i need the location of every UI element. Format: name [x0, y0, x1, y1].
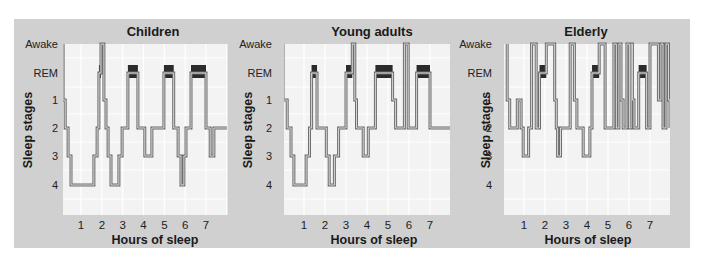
panel-young-adults: Young adultsAwakeREM1234Sleep stages1234…: [239, 24, 450, 247]
x-tick-label: 7: [647, 219, 653, 231]
y-tick-label: REM: [34, 67, 58, 79]
x-tick-label: 4: [584, 219, 591, 231]
panel-title: Young adults: [331, 24, 412, 39]
x-tick-label: 6: [182, 219, 188, 231]
panel-children: ChildrenAwakeREM1234Sleep stages1234567H…: [21, 24, 227, 247]
y-tick-label: Awake: [239, 38, 272, 50]
x-tick-label: 2: [542, 219, 548, 231]
panel-title: Children: [127, 24, 180, 39]
y-tick-label: 3: [52, 150, 58, 162]
hypnogram-panels: ChildrenAwakeREM1234Sleep stages1234567H…: [14, 19, 690, 248]
y-tick-label: 4: [52, 179, 58, 191]
x-tick-label: 3: [563, 219, 569, 231]
y-tick-label: Awake: [25, 38, 58, 50]
y-tick-label: 4: [266, 179, 272, 191]
x-tick-label: 1: [78, 219, 84, 231]
x-tick-label: 1: [521, 219, 527, 231]
x-tick-label: 5: [605, 219, 611, 231]
y-tick-label: 2: [52, 122, 58, 134]
y-tick-label: 1: [266, 94, 272, 106]
y-tick-label: Awake: [459, 38, 492, 50]
x-tick-label: 3: [343, 219, 349, 231]
y-tick-label: REM: [468, 67, 492, 79]
y-tick-label: 3: [266, 150, 272, 162]
y-axis-label: Sleep stages: [21, 92, 35, 168]
x-tick-label: 1: [301, 219, 307, 231]
x-tick-label: 3: [119, 219, 125, 231]
y-axis-label: Sleep stages: [241, 92, 255, 168]
x-tick-label: 7: [203, 219, 209, 231]
y-tick-label: 1: [52, 94, 58, 106]
x-tick-label: 5: [385, 219, 391, 231]
x-axis-label: Hours of sleep: [112, 233, 199, 247]
y-axis-label: Sleep stages: [479, 92, 493, 168]
panel-title: Elderly: [564, 24, 608, 39]
x-tick-label: 4: [364, 219, 371, 231]
x-axis-label: Hours of sleep: [331, 233, 418, 247]
panel-elderly: ElderlyAwakeREM1234Sleep stages1234567Ho…: [459, 24, 670, 247]
y-tick-label: 2: [266, 122, 272, 134]
x-tick-label: 4: [140, 219, 147, 231]
x-tick-label: 2: [322, 219, 328, 231]
x-tick-label: 6: [626, 219, 632, 231]
y-tick-label: 4: [486, 179, 492, 191]
sleep-stages-figure: ChildrenAwakeREM1234Sleep stages1234567H…: [14, 19, 690, 248]
x-tick-label: 2: [99, 219, 105, 231]
x-axis-label: Hours of sleep: [545, 233, 632, 247]
y-tick-label: REM: [248, 67, 272, 79]
x-tick-label: 5: [161, 219, 167, 231]
x-tick-label: 6: [406, 219, 412, 231]
x-tick-label: 7: [427, 219, 433, 231]
